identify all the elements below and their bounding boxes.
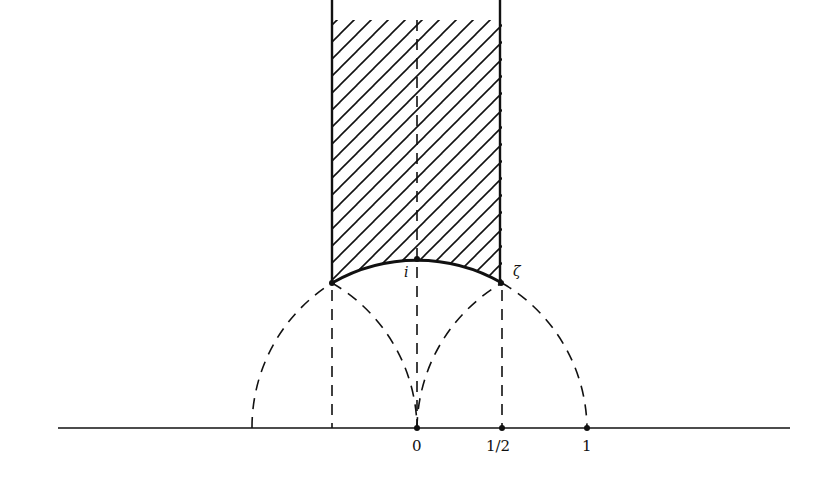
point-i (414, 256, 420, 262)
point-zeta (498, 280, 504, 286)
point-half (499, 425, 505, 431)
point-one (584, 425, 590, 431)
label-zeta: ζ (513, 263, 522, 279)
point-corner-left (329, 280, 335, 286)
tick-label-0: 0 (412, 437, 422, 455)
marked-points (329, 256, 590, 431)
point-zero (414, 425, 420, 431)
tick-label-1: 1 (582, 437, 592, 455)
unit-circle-dashed (252, 283, 587, 428)
modular-fundamental-domain-diagram: i ζ 0 1/2 1 (0, 0, 824, 481)
tick-label-half: 1/2 (486, 437, 510, 455)
label-i: i (404, 264, 408, 280)
circle-center-plus-1 (417, 283, 502, 428)
circle-center-minus-1 (332, 283, 417, 428)
